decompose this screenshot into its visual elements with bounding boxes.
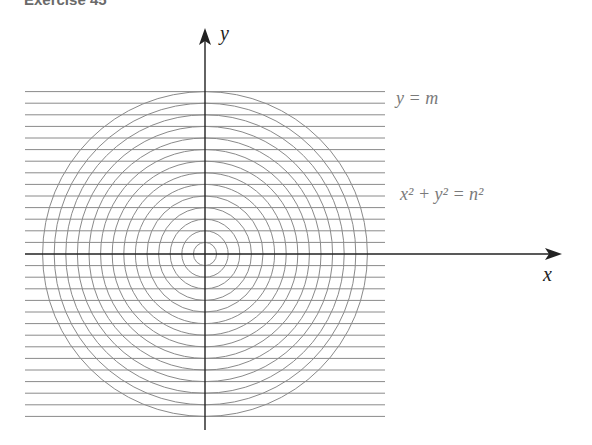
level-curves-diagram: x y y = m x² + y² = n²: [0, 0, 592, 445]
y-axis-label: y: [218, 22, 229, 45]
circle-family-label: x² + y² = n²: [399, 184, 484, 204]
x-axis-label: x: [542, 263, 552, 285]
line-family-label: y = m: [394, 88, 438, 108]
